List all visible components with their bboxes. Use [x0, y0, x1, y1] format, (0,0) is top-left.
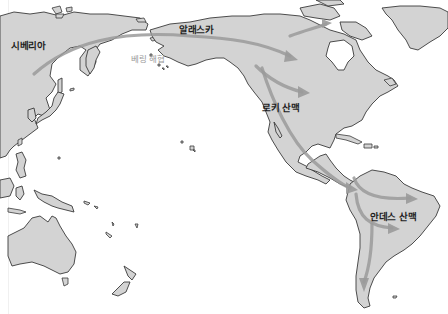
arrowhead-canada-east — [322, 19, 332, 28]
island-hawaii-3 — [193, 150, 195, 152]
island-falklands — [393, 296, 397, 298]
landmass-philippines — [16, 152, 26, 178]
island-pacific-dot-1 — [58, 157, 60, 159]
landmass-new-zealand-north — [124, 266, 136, 280]
island-cuba — [336, 134, 362, 144]
label-bering-strait: 베링 해협 — [131, 52, 164, 64]
landmass-new-guinea — [34, 190, 74, 212]
island-puerto-rico — [374, 146, 378, 148]
landmass-borneo — [0, 178, 14, 198]
island-arctic-4 — [136, 18, 146, 22]
label-alaska: 알래스카 — [179, 22, 214, 36]
island-aleutian-2 — [158, 64, 160, 66]
island-aleutian-3 — [162, 68, 164, 70]
landmass-central-america — [306, 154, 358, 188]
landmass-greenland — [382, 6, 448, 50]
island-tasmania — [62, 278, 68, 286]
label-rocky-mountains: 로키 산맥 — [262, 100, 300, 114]
landmass-canadian-arctic-1 — [300, 4, 340, 20]
landmass-asia-siberia — [0, 12, 148, 158]
landmass-australia — [8, 216, 76, 274]
island-vanuatu — [112, 222, 114, 226]
island-kuril — [70, 88, 74, 91]
island-fiji — [135, 224, 138, 228]
label-andes-mountains: 안데스 산맥 — [370, 209, 417, 223]
island-new-caledonia — [106, 232, 112, 238]
island-java — [8, 208, 26, 214]
island-hawaii-2 — [190, 146, 194, 150]
landmass-south-america — [346, 170, 440, 308]
island-hispaniola — [364, 144, 372, 148]
island-aleutian-4 — [166, 66, 168, 68]
pacific-map — [0, 0, 448, 314]
landmass-new-zealand-south — [112, 282, 130, 296]
landmass-sakhalin — [58, 78, 62, 94]
island-arctic-1 — [52, 6, 62, 14]
landmass-kamchatka — [86, 46, 100, 74]
island-solomon-2 — [94, 206, 98, 209]
landmass-sulawesi — [16, 186, 24, 200]
island-solomon-1 — [84, 201, 90, 205]
island-hawaii-1 — [181, 141, 183, 143]
island-arctic-2 — [66, 7, 72, 12]
label-siberia: 시베리아 — [11, 38, 46, 52]
